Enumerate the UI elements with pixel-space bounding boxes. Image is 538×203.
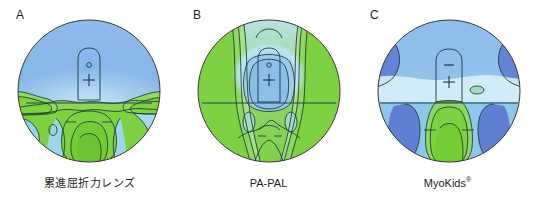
lens-map-b	[196, 18, 342, 164]
lens-map-a-svg	[16, 18, 162, 164]
lens-map-a	[16, 18, 162, 164]
lens-map-c-fill	[376, 18, 522, 164]
figure-container: A	[0, 0, 538, 203]
registered-trademark-symbol: ®	[466, 176, 471, 183]
lens-map-a-fill	[16, 18, 162, 164]
panel-a: A	[0, 0, 179, 203]
panel-caption-a-text: 累進屈折力レンズ	[44, 177, 136, 190]
lens-map-b-svg	[196, 18, 342, 164]
panel-caption-a: 累進屈折力レンズ	[0, 176, 179, 191]
lens-map-c	[376, 18, 522, 164]
panel-caption-c-text: MyoKids	[424, 177, 466, 189]
lens-map-c-svg	[376, 18, 522, 164]
panel-caption-b-text: PA-PAL	[250, 177, 288, 189]
panel-caption-b: PA-PAL	[179, 176, 358, 191]
lens-map-b-fill	[196, 18, 342, 164]
panel-caption-c: MyoKids®	[358, 176, 537, 191]
panel-c: C	[358, 0, 537, 203]
panel-b: B	[179, 0, 358, 203]
